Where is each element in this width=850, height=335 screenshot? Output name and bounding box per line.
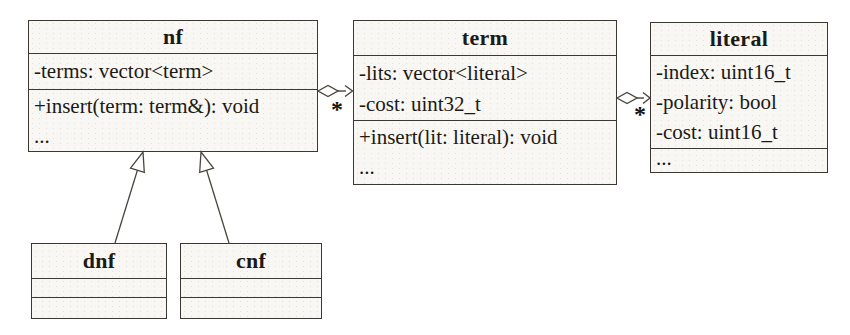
class-box-nf: nf -terms: vector<term> +insert(term: te… <box>28 20 318 152</box>
attributes-compartment-empty <box>181 279 321 298</box>
attribute-line: -cost: uint32_t <box>359 89 611 120</box>
methods-compartment: ... <box>651 149 827 171</box>
attribute-line: -index: uint16_t <box>656 57 822 87</box>
connector-line <box>207 170 229 243</box>
class-title: literal <box>651 23 827 56</box>
inheritance-triangle-icon <box>131 152 145 172</box>
attributes-compartment: -terms: vector<term> <box>29 54 317 90</box>
class-title: dnf <box>32 244 166 279</box>
method-line: +insert(term: term&): void <box>34 91 312 121</box>
methods-compartment: +insert(lit: literal): void ... <box>354 121 616 183</box>
attributes-compartment: -lits: vector<literal> -cost: uint32_t <box>354 56 616 121</box>
attribute-line: -polarity: bool <box>656 87 822 117</box>
class-box-literal: literal -index: uint16_t -polarity: bool… <box>650 22 828 173</box>
multiplicity-label-term: * <box>331 97 343 121</box>
methods-compartment: +insert(term: term&): void ... <box>29 90 317 150</box>
attributes-compartment: -index: uint16_t -polarity: bool -cost: … <box>651 56 827 149</box>
inheritance-triangle-icon <box>200 152 214 172</box>
uml-class-diagram: nf -terms: vector<term> +insert(term: te… <box>0 0 850 335</box>
method-line: ... <box>359 152 611 182</box>
multiplicity-label-literal: * <box>634 102 646 126</box>
open-arrowhead-icon <box>345 86 353 97</box>
method-line: ... <box>656 150 822 166</box>
class-title: term <box>354 21 616 56</box>
methods-compartment-empty <box>181 298 321 317</box>
class-box-cnf: cnf <box>180 243 322 319</box>
attributes-compartment-empty <box>32 279 166 298</box>
class-title: nf <box>29 21 317 54</box>
inheritance-connector-dnf-nf <box>115 152 144 243</box>
attribute-line: -terms: vector<term> <box>34 55 312 88</box>
attribute-line: -cost: uint16_t <box>656 117 822 147</box>
attribute-line: -lits: vector<literal> <box>359 58 611 89</box>
inheritance-connector-cnf-nf <box>200 152 229 243</box>
connector-line <box>115 170 137 243</box>
aggregation-diamond-icon <box>318 86 338 97</box>
methods-compartment-empty <box>32 298 166 317</box>
class-title: cnf <box>181 244 321 279</box>
aggregation-connector-nf-term <box>318 86 353 97</box>
class-box-dnf: dnf <box>31 243 167 319</box>
method-line: +insert(lit: literal): void <box>359 122 611 152</box>
method-line: ... <box>34 121 312 150</box>
class-box-term: term -lits: vector<literal> -cost: uint3… <box>353 20 617 185</box>
